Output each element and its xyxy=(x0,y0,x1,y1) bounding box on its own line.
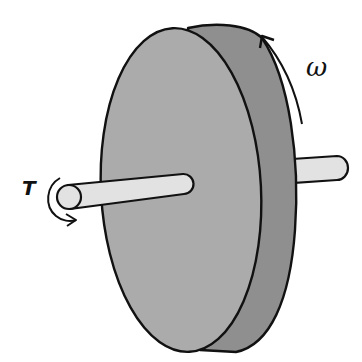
torque-label: T xyxy=(22,176,36,200)
flywheel-diagram: T ω xyxy=(0,0,362,362)
angular-velocity-label: ω xyxy=(306,52,327,82)
shaft-back xyxy=(292,156,348,183)
